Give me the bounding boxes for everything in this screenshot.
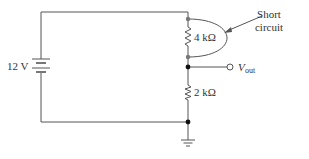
- node-top-short: [186, 17, 190, 21]
- annotation-line1: Short: [257, 8, 281, 20]
- node-bottom-short: [186, 55, 190, 59]
- resistor-2k-label: 2 kΩ: [194, 86, 216, 98]
- resistor-4k-icon: [185, 27, 191, 46]
- circuit-diagram: 12 V 4 kΩ 2 kΩ V out Short circuit: [0, 0, 309, 159]
- annotation-line2: circuit: [255, 21, 283, 33]
- vout-terminal: [227, 64, 233, 70]
- node-ground: [186, 120, 191, 125]
- battery-icon: [32, 59, 50, 72]
- source-label: 12 V: [7, 60, 29, 72]
- ground-icon: [181, 140, 195, 146]
- vout-label-sub: out: [245, 66, 256, 75]
- arrowhead-icon: [224, 27, 232, 33]
- node-vout: [186, 65, 191, 70]
- resistor-2k-icon: [185, 85, 191, 100]
- resistor-4k-label: 4 kΩ: [194, 31, 216, 43]
